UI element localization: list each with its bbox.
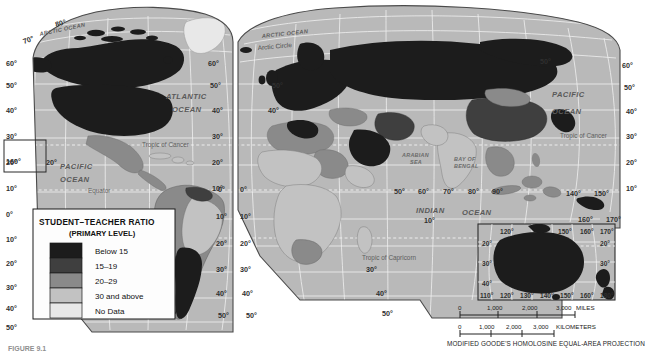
lat-label-left-5: 10° [6, 184, 17, 193]
east-lat-40: 40° [242, 289, 253, 298]
label-pacific-ocean-west-line1: PACIFIC [60, 162, 93, 171]
miles-tick-1: 1,000 [487, 304, 503, 311]
label-tropic-of-capricorn: Tropic of Capricorn [362, 254, 417, 262]
inner-lat-20-r: 20° [212, 158, 223, 167]
inner-lat-20-l: 20° [46, 158, 57, 167]
inset-lon-130: 130° [520, 292, 534, 299]
region-australia [493, 232, 584, 294]
label-tropic-of-cancer-west: Tropic of Cancer [142, 141, 190, 149]
legend-title: STUDENT–TEACHER RATIO [39, 217, 155, 227]
legend-swatch-0 [50, 243, 82, 258]
map-figure: ARCTIC OCEAN ARCTIC OCEAN Arctic Circle … [0, 0, 646, 354]
atl-lat-50: 50° [218, 311, 229, 320]
figure-caption: FIGURE 9.1 [8, 345, 46, 352]
miles-unit: MILES [576, 304, 595, 311]
lat-label-right-3: 30° [626, 132, 637, 141]
inset-lon-150: 150° [560, 292, 574, 299]
lat-label-left-2: 40° [6, 106, 17, 115]
legend-label-0: Below 15 [95, 247, 128, 256]
euro-lat-50: 50° [272, 81, 283, 90]
atl-lat-10: 10° [216, 212, 227, 221]
atl-lat-20: 20° [216, 239, 227, 248]
inset-lat-right-30: 30° [600, 260, 610, 267]
east-inner-lat-50: 50° [540, 57, 551, 66]
miles-tick-3: 3,000 [556, 304, 572, 311]
lat-label-left-11: 50° [6, 323, 17, 332]
east-lat-30: 30° [240, 265, 251, 274]
pac-lon-170: 170° [606, 215, 621, 224]
label-tropic-of-cancer-east: Tropic of Cancer [560, 132, 608, 140]
east-lat-20: 20° [240, 239, 251, 248]
lat-label-left-8: 20° [6, 259, 17, 268]
lat-label-right-4: 20° [626, 158, 637, 167]
label-arabian-sea-line2: SEA [410, 159, 422, 165]
legend: STUDENT–TEACHER RATIO (PRIMARY LEVEL) Be… [33, 209, 175, 319]
inner-lat-30-r: 30° [212, 132, 223, 141]
atl-lat-40: 40° [216, 289, 227, 298]
inset-lon-160: 160° [580, 292, 594, 299]
inset-lat-left-20: 20° [482, 240, 492, 247]
atl-lat-0: 0° [218, 185, 225, 194]
lat-label-right-1: 50° [624, 83, 635, 92]
lat-label-right-5: 10° [626, 184, 637, 193]
label-atlantic-ocean-line2: OCEAN [172, 105, 202, 114]
lon-label-160: 160° [6, 157, 21, 166]
label-arabian-sea-line1: ARABIAN [401, 152, 429, 158]
region-iceland [240, 47, 252, 53]
km-tick-0: 0 [458, 323, 462, 330]
inset-lon-120: 120° [500, 292, 514, 299]
label-pacific-ocean-west-line2: OCEAN [60, 175, 90, 184]
label-pacific-ocean-east-line1: PACIFIC [552, 90, 585, 99]
inner-lat-50-r: 50° [210, 81, 221, 90]
label-bay-of-bengal-line2: BENGAL [454, 163, 479, 169]
label-indian-ocean-line2: OCEAN [462, 208, 492, 217]
east-lat-50: 50° [246, 311, 257, 320]
legend-swatch-1 [50, 258, 82, 273]
inset-lon-140: 140° [540, 292, 554, 299]
inset-lon-top-170: 170° [600, 228, 614, 235]
inset-lon-top-160: 160° [580, 228, 594, 235]
legend-label-2: 20–29 [95, 277, 118, 286]
inner-lat-40-r: 40° [212, 106, 223, 115]
africa-lat-50: 50° [382, 309, 393, 318]
inset-lon-top-150: 150° [558, 228, 572, 235]
label-indian-ocean-line1: INDIAN [416, 206, 445, 215]
pac-lon-150: 150° [594, 189, 609, 198]
projection-note: MODIFIED GOODE'S HOMOLOSINE EQUAL-AREA P… [447, 340, 645, 348]
miles-tick-2: 2,000 [522, 304, 538, 311]
label-pacific-ocean-east-line2: OCEAN [552, 107, 582, 116]
lon-90: 90° [492, 187, 503, 196]
euro-lat-40: 40° [268, 106, 279, 115]
lat-label-left-1: 50° [6, 81, 17, 90]
lat-label-left-6: 0° [6, 210, 13, 219]
east-lat-0: 0° [240, 185, 247, 194]
lat-label-left-0: 60° [6, 59, 17, 68]
lat-label-left-7: 10° [6, 235, 17, 244]
inset-lon-180: 180° [600, 292, 614, 299]
km-tick-1: 1,000 [479, 323, 495, 330]
legend-swatch-2 [50, 273, 82, 288]
east-lat-10: 10° [240, 212, 251, 221]
lat-label-right-2: 40° [626, 107, 637, 116]
km-tick-3: 3,000 [533, 323, 549, 330]
indian-lat-10: 10° [424, 216, 435, 225]
legend-label-3: 30 and above [95, 292, 144, 301]
pac-lon-160: 160° [578, 215, 593, 224]
legend-swatch-4 [50, 303, 82, 318]
km-unit: KILOMETERS [556, 323, 596, 330]
lon-70: 70° [443, 187, 454, 196]
label-atlantic-ocean-line1: ATLANTIC [165, 92, 207, 101]
inner-lat-60-r: 60° [208, 59, 219, 68]
africa-lat-40: 40° [376, 289, 387, 298]
australia-new-zealand-inset: 110° 120° 130° 140° 150° 160° 180° 120° … [478, 224, 615, 300]
lat-label-left-10: 40° [6, 304, 17, 313]
inset-lat-left-40: 40° [482, 280, 492, 287]
lat-label-left-9: 30° [6, 283, 17, 292]
legend-label-4: No Data [95, 307, 125, 316]
label-bay-of-bengal-line1: BAY OF [454, 156, 476, 162]
legend-swatch-3 [50, 288, 82, 303]
lon-60: 60° [418, 187, 429, 196]
legend-label-1: 15–19 [95, 262, 118, 271]
lon-50: 50° [394, 187, 405, 196]
africa-lat-30: 30° [366, 265, 377, 274]
